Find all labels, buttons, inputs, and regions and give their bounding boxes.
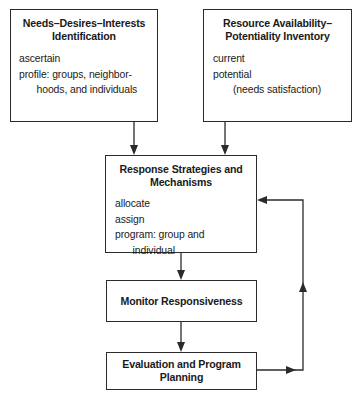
box-response-title: Response Strategies and Mechanisms (110, 163, 252, 189)
box-response-line-2: assign (115, 212, 256, 228)
flowchart-figure: Needs–Desires–Interests Identification a… (0, 0, 357, 398)
box-evaluation-title: Evaluation and Program Planning (107, 358, 256, 384)
box-response-strategies: Response Strategies and Mechanisms alloc… (105, 155, 257, 253)
box-monitor-responsiveness: Monitor Responsiveness (106, 280, 257, 322)
connector-evaluation-feedback-to-response (257, 196, 307, 374)
box-resource-title: Resource Availability–Potentiality Inven… (208, 17, 347, 43)
box-monitor-title: Monitor Responsiveness (107, 295, 256, 308)
box-resource-inventory: Resource Availability–Potentiality Inven… (203, 9, 352, 122)
box-needs-title: Needs–Desires–Interests Identification (15, 17, 153, 43)
box-resource-line-3: (needs satisfaction) (213, 82, 351, 98)
box-response-line-3: program: group and individual (115, 227, 256, 258)
connector-needs-to-response (130, 122, 138, 155)
box-response-line-1: allocate (115, 196, 256, 212)
box-resource-line-1: current (213, 51, 351, 67)
connector-monitor-to-evaluation (177, 322, 185, 352)
box-resource-line-2: potential (213, 67, 351, 83)
connector-resource-to-response (221, 122, 229, 155)
box-needs-desires-interests: Needs–Desires–Interests Identification a… (10, 9, 158, 122)
box-needs-body: ascertain profile: groups, neighbor- hoo… (19, 51, 157, 98)
box-needs-line-1: ascertain (19, 51, 157, 67)
box-response-body: allocate assign program: group and indiv… (115, 196, 256, 258)
box-resource-body: current potential (needs satisfaction) (213, 51, 351, 98)
box-evaluation-program-planning: Evaluation and Program Planning (106, 352, 257, 390)
box-needs-line-2: profile: groups, neighbor- hoods, and in… (19, 67, 157, 98)
